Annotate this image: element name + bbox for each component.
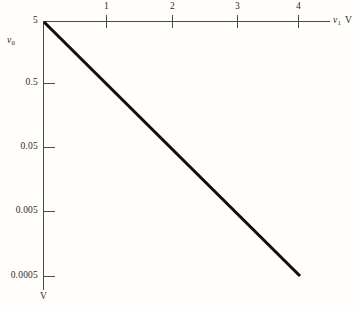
x-tick-label-1: 1 bbox=[104, 2, 109, 12]
x-tick-label-4: 4 bbox=[296, 2, 301, 12]
x-axis-title-subscript: 1 bbox=[338, 19, 342, 26]
plot-canvas bbox=[0, 0, 357, 309]
y-axis-title-subscript: 0 bbox=[12, 39, 16, 46]
x-axis-unit-label: V bbox=[345, 15, 352, 25]
x-axis-title: v1V bbox=[333, 16, 352, 26]
y-axis-title-text: v bbox=[7, 35, 11, 45]
y-tick-label-0p05: 0.05 bbox=[0, 142, 38, 152]
y-tick-label-5: 5 bbox=[22, 16, 38, 26]
y-axis-title: v0 bbox=[7, 36, 15, 46]
y-axis-unit-label: V bbox=[40, 292, 47, 302]
data-series-line bbox=[44, 22, 300, 276]
y-tick-label-0p0005: 0.0005 bbox=[0, 271, 38, 281]
x-tick-label-3: 3 bbox=[235, 2, 240, 12]
chart-figure: 5 v0 0.5 0.05 0.005 0.0005 V 1 2 3 4 v1V bbox=[0, 0, 357, 309]
x-axis-title-text: v bbox=[333, 15, 337, 25]
y-tick-label-0p005: 0.005 bbox=[0, 206, 38, 216]
x-tick-label-2: 2 bbox=[170, 2, 175, 12]
y-tick-label-0p5: 0.5 bbox=[4, 78, 38, 88]
